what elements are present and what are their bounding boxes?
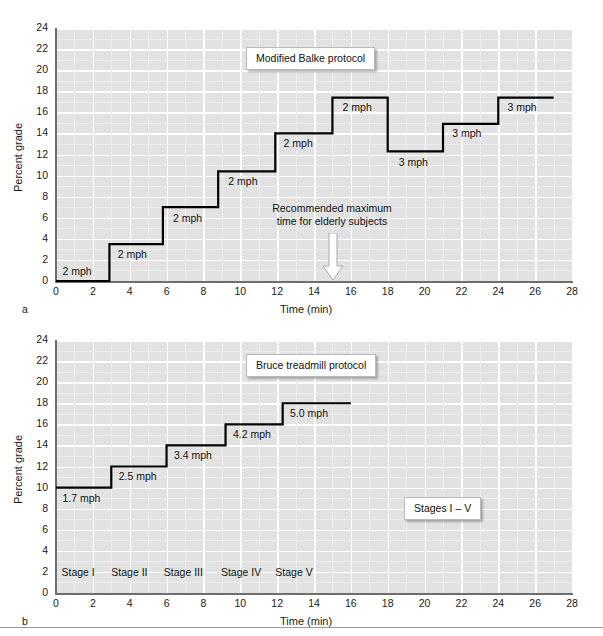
speed-label: 3.4 mph [174,449,212,461]
stage-label: Stage V [275,566,312,578]
figure-container: 0246810121416182022240246810121416182022… [0,0,603,636]
speed-label: 2 mph [284,137,313,149]
stage-label: Stage III [164,566,203,578]
speed-label: 2 mph [343,101,372,113]
speed-label: 2 mph [173,212,202,224]
speed-label: 5.0 mph [290,407,328,419]
speed-label: 4.2 mph [233,428,271,440]
annotation-line-2: time for elderly subjects [252,215,412,228]
speed-label: 2 mph [62,265,91,277]
panel-a: 0246810121416182022240246810121416182022… [0,0,603,318]
speed-label: 2.5 mph [119,470,157,482]
callout-stages-i-v: Stages I – V [404,497,481,520]
stage-label: Stage I [62,566,95,578]
footer-divider [0,627,603,629]
annotation-line-1: Recommended maximum [252,202,412,215]
stage-label: Stage IV [221,566,261,578]
down-arrow-icon [322,233,344,281]
callout-bruce-treadmill-protocol: Bruce treadmill protocol [246,354,376,377]
speed-label: 1.7 mph [62,492,100,504]
callout-modified-balke-protocol: Modified Balke protocol [246,47,375,70]
speed-label: 3 mph [508,101,537,113]
speed-label: 2 mph [228,175,257,187]
panel-b: 0246810121416182022240246810121416182022… [0,318,603,618]
speed-label: 3 mph [399,156,428,168]
speed-label: 3 mph [452,127,481,139]
stage-label: Stage II [111,566,147,578]
speed-label: 2 mph [118,248,147,260]
